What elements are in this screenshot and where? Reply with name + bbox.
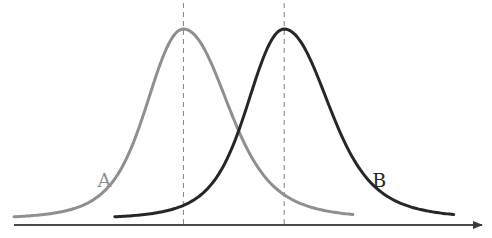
- curve-label-b: B: [372, 169, 386, 191]
- curves: [14, 29, 454, 217]
- mean-guides: [183, 3, 284, 225]
- curve-labels: AB: [96, 169, 386, 191]
- curve-label-a: A: [96, 169, 111, 191]
- distribution-chart: AB: [0, 0, 492, 238]
